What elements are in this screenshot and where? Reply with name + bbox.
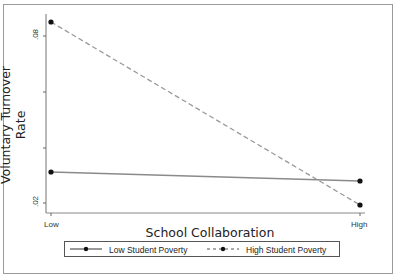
series-high-poverty-line bbox=[51, 22, 360, 205]
series-low-poverty-point-high bbox=[357, 178, 362, 183]
x-tick-label-low: Low bbox=[44, 220, 59, 229]
legend: Low Student Poverty High Student Poverty bbox=[64, 241, 340, 257]
legend-item-low-poverty: Low Student Poverty bbox=[109, 243, 187, 256]
legend-item-high-poverty: High Student Poverty bbox=[246, 243, 326, 256]
x-axis-title: School Collaboration bbox=[130, 225, 290, 240]
series-high-poverty-point-low bbox=[48, 19, 53, 24]
series-low-poverty-line bbox=[51, 172, 360, 181]
series-high-poverty-point-high bbox=[357, 202, 362, 207]
x-tick-label-high: High bbox=[351, 220, 367, 229]
legend-label-low-poverty: Low Student Poverty bbox=[109, 245, 187, 255]
series-low-poverty-point-low bbox=[48, 169, 53, 174]
y-tick-label-top: .08 bbox=[31, 29, 40, 40]
y-tick-label-bottom: .02 bbox=[31, 196, 40, 207]
y-axis-title: Voluntary Turnover Rate bbox=[0, 50, 28, 200]
legend-label-high-poverty: High Student Poverty bbox=[246, 245, 326, 255]
